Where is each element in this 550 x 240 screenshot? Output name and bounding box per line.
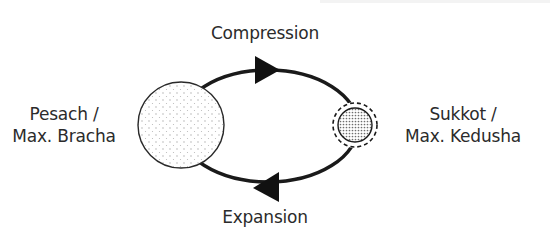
pesach-label: Pesach / Max. Bracha	[0, 103, 128, 147]
expansion-label: Expansion	[205, 206, 325, 228]
arrow-left-icon	[253, 172, 279, 202]
compression-label: Compression	[205, 22, 325, 44]
sukkot-label: Sukkot / Max. Kedusha	[388, 103, 538, 147]
arrow-right-icon	[255, 56, 280, 84]
sukkot-label-line1: Sukkot /	[388, 103, 538, 125]
sukkot-node	[332, 102, 378, 148]
pesach-label-line2: Max. Bracha	[0, 125, 128, 147]
pesach-node	[138, 82, 224, 168]
sukkot-label-line2: Max. Kedusha	[388, 125, 538, 147]
pesach-label-line1: Pesach /	[0, 103, 128, 125]
cycle-diagram: Compression Expansion Pesach / Max. Brac…	[0, 0, 550, 240]
